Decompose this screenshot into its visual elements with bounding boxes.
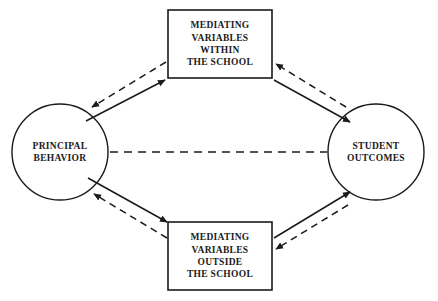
edge-principal-to-mediating-within (86, 80, 165, 121)
node-mediating-outside (168, 222, 272, 290)
node-mediating-within (168, 10, 272, 78)
edge-mediating-outside-to-student (274, 192, 350, 238)
edge-student-to-mediating-outside (276, 205, 348, 249)
diagram-canvas (0, 0, 438, 301)
node-principal-behavior (12, 104, 108, 200)
mediation-diagram: PRINCIPAL BEHAVIOR STUDENT OUTCOMES MEDI… (0, 0, 438, 301)
edge-principal-to-mediating-outside (88, 178, 167, 222)
